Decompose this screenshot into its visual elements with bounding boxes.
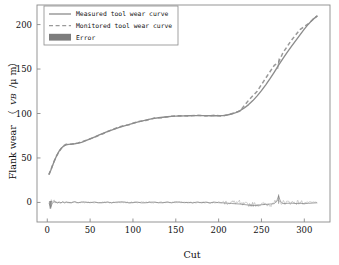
x-tick-label: 300 xyxy=(296,225,312,235)
x-tick-label: 100 xyxy=(125,225,141,235)
x-tick-label: 200 xyxy=(211,225,227,235)
x-tick-label: 150 xyxy=(168,225,184,235)
x-tick-label: 50 xyxy=(85,225,96,235)
chart-canvas: 050100150200250300 050100150200 Measured… xyxy=(0,0,339,265)
legend-marker-error-swatch xyxy=(49,34,71,41)
legend-item-label: Measured tool wear curve xyxy=(76,10,168,18)
x-tick-label: 250 xyxy=(253,225,269,235)
y-axis-title-paren: （ xyxy=(7,110,18,120)
y-axis-title-prefix: Flank wear xyxy=(7,125,18,180)
legend-item-label: Monitored tool wear curve xyxy=(76,22,172,30)
x-axis-title: Cut xyxy=(183,249,200,260)
y-tick-label: 0 xyxy=(27,197,32,207)
chart-legend: Measured tool wear curveMonitored tool w… xyxy=(44,6,178,45)
x-tick-label: 0 xyxy=(45,225,50,235)
y-axis-title-unit: /μ m） xyxy=(7,57,18,88)
y-tick-label: 50 xyxy=(21,153,32,163)
y-axis-title-symbol: VB xyxy=(8,93,18,105)
legend-item-label: Error xyxy=(76,34,95,42)
y-tick-label: 150 xyxy=(16,64,32,74)
y-tick-label: 200 xyxy=(16,20,32,30)
chart-figure: 050100150200250300 050100150200 Measured… xyxy=(0,0,339,265)
